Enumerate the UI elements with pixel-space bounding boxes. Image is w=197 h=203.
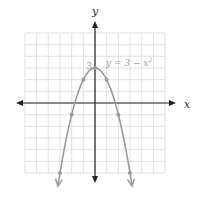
data-point <box>81 78 85 82</box>
axes <box>16 21 176 183</box>
parabola-chart: y x 3 y = 3 − x2 <box>0 0 197 203</box>
y-axis-down-arrow-icon <box>92 176 98 183</box>
y-axis-up-arrow-icon <box>92 21 98 28</box>
x-axis-right-arrow-icon <box>169 100 176 106</box>
data-point <box>116 113 120 117</box>
equation-text: y = 3 − x <box>105 58 148 68</box>
data-point <box>58 171 62 175</box>
equation-label: y = 3 − x2 <box>105 56 152 68</box>
x-axis-label: x <box>184 98 191 111</box>
y-axis-label: y <box>91 5 99 18</box>
intercept-label: 3 <box>86 61 92 71</box>
data-point <box>128 171 132 175</box>
data-point <box>70 113 74 117</box>
x-axis-left-arrow-icon <box>16 100 23 106</box>
data-point <box>105 78 109 82</box>
equation-exponent: 2 <box>147 56 152 63</box>
data-point <box>93 66 97 70</box>
